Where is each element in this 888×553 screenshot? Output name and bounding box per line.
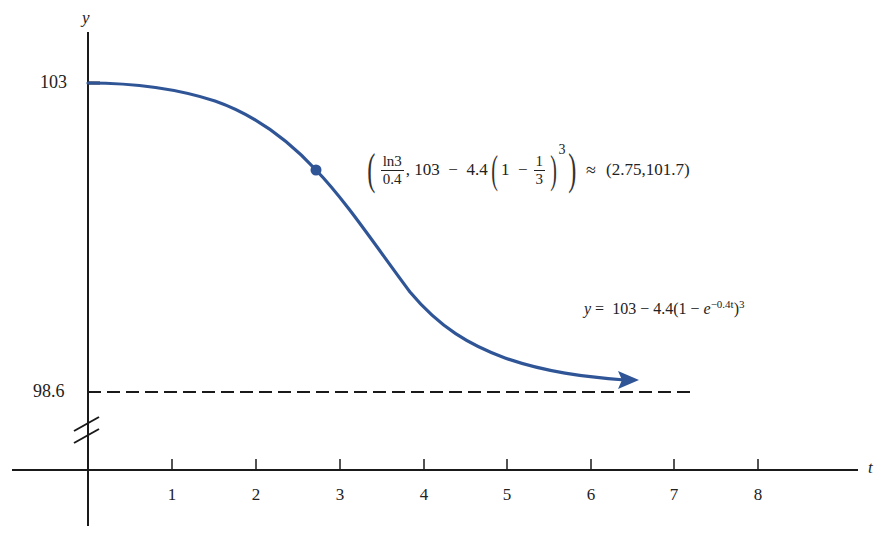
y-tick-label-103: 103 <box>40 72 67 93</box>
equation-body: = 103 − 4.4(1 − <box>591 300 703 317</box>
t-axis-ticks <box>172 459 758 470</box>
inner-close-paren: ) <box>550 150 557 190</box>
equation-label: y = 103 − 4.4(1 − e−0.4t)3 <box>584 298 744 318</box>
point-annotation: ( ln3 0.4 , 103 − 4.4 ( 1 − 1 3 ) 3 ) ≈ … <box>364 148 690 192</box>
t-tick-label: 3 <box>336 485 345 505</box>
t-tick-label: 7 <box>670 485 679 505</box>
equation-power: 3 <box>739 298 745 310</box>
t-tick-label: 2 <box>252 485 261 505</box>
t-tick-label: 5 <box>503 485 512 505</box>
inner-open-paren: ( <box>491 150 498 190</box>
t-tick-label: 8 <box>754 485 763 505</box>
t-tick-label: 6 <box>587 485 596 505</box>
annotation-inner-one: 1 − <box>501 160 528 180</box>
y-tick-label-98-6: 98.6 <box>33 381 65 402</box>
annotation-expression: , 103 − 4.4 <box>406 160 488 180</box>
y-axis-label: y <box>82 8 90 28</box>
inflection-point <box>311 165 322 176</box>
chart-canvas <box>0 0 888 553</box>
approx-symbol: ≈ <box>586 160 596 181</box>
close-paren: ) <box>569 148 577 192</box>
fraction-numerator: 1 <box>534 153 546 171</box>
fraction-one-third: 1 3 <box>534 153 546 188</box>
annotation-exponent: 3 <box>558 142 565 158</box>
fraction-denominator: 3 <box>536 171 544 188</box>
fraction-denominator: 0.4 <box>383 171 402 188</box>
curve <box>88 83 625 380</box>
t-tick-label: 4 <box>420 485 429 505</box>
equation-exponent: −0.4t <box>711 298 734 310</box>
fraction-numerator: ln3 <box>381 153 404 171</box>
t-axis-label: t <box>868 458 873 478</box>
approx-value: (2.75,101.7) <box>606 160 690 180</box>
open-paren: ( <box>367 148 375 192</box>
equation-e: e <box>704 300 711 317</box>
fraction-ln3-over-0-4: ln3 0.4 <box>381 153 404 188</box>
t-tick-label: 1 <box>168 485 177 505</box>
axis-break-icon <box>74 417 99 443</box>
